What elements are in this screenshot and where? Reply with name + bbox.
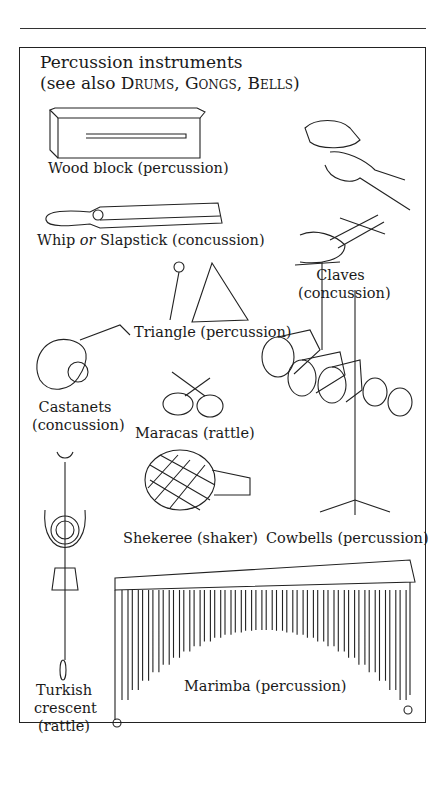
label-triangle: Triangle (percussion)	[134, 323, 292, 341]
shekeree-drawing	[145, 450, 250, 510]
instrument-illustrations	[0, 0, 447, 787]
label-marimba: Marimba (percussion)	[184, 677, 347, 695]
label-wood-block: Wood block (percussion)	[48, 159, 229, 177]
label-maracas: Maracas (rattle)	[135, 424, 255, 442]
label-cowbells: Cowbells (percussion)	[266, 529, 429, 547]
triangle-drawing	[170, 262, 248, 322]
label-claves: Claves(concussion)	[298, 266, 383, 302]
marimba-drawing	[113, 560, 415, 727]
claves-hands-bottom-drawing	[295, 215, 385, 265]
label-turkish-crescent: Turkishcrescent(rattle)	[34, 681, 94, 735]
castanets-drawing	[37, 325, 130, 389]
maracas-drawing	[163, 372, 223, 417]
whip-drawing	[46, 203, 222, 228]
label-shekeree: Shekeree (shaker)	[123, 529, 258, 547]
wood-block-drawing	[50, 108, 205, 158]
claves-hands-top-drawing	[305, 121, 410, 211]
turkish-crescent-drawing	[45, 452, 86, 680]
label-castanets: Castanets(concussion)	[32, 398, 118, 434]
label-whip: Whip or Slapstick (concussion)	[37, 231, 265, 249]
